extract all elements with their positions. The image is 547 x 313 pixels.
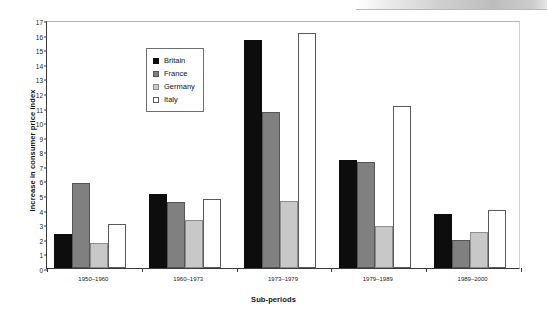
bar-france-1950–1960 bbox=[72, 183, 90, 268]
plot-area: 01234567891011121314151617 bbox=[46, 21, 520, 269]
bar-italy-1973–1979 bbox=[298, 33, 316, 268]
legend-swatch-britain bbox=[153, 58, 159, 64]
x-axis-group-label: 1979–1989 bbox=[363, 276, 393, 282]
bar-france-1989–2000 bbox=[452, 240, 470, 268]
bar-britain-1979–1989 bbox=[339, 160, 357, 268]
legend-label: France bbox=[164, 69, 187, 78]
bar-france-1979–1989 bbox=[357, 162, 375, 268]
legend: BritainFranceGermanyItaly bbox=[146, 48, 204, 112]
bar-germany-1979–1989 bbox=[375, 226, 393, 268]
legend-label: Britain bbox=[164, 56, 185, 65]
x-axis-tick-mark bbox=[142, 268, 143, 272]
x-axis-group-label: 1960–1973 bbox=[173, 276, 203, 282]
legend-label: Italy bbox=[164, 95, 178, 104]
bar-britain-1989–2000 bbox=[434, 214, 452, 268]
bar-italy-1989–2000 bbox=[488, 210, 506, 268]
bar-france-1960–1973 bbox=[167, 202, 185, 268]
legend-label: Germany bbox=[164, 82, 195, 91]
x-axis-group-label: 1950–1960 bbox=[78, 276, 108, 282]
x-axis-tick-mark bbox=[237, 268, 238, 272]
x-axis-group-label: 1973–1979 bbox=[268, 276, 298, 282]
bar-chart: Increase in consumer price index 0123456… bbox=[0, 0, 547, 313]
legend-item-germany: Germany bbox=[153, 80, 195, 93]
x-axis-tick-mark bbox=[331, 268, 332, 272]
bar-italy-1979–1989 bbox=[393, 106, 411, 268]
bar-germany-1960–1973 bbox=[185, 220, 203, 268]
x-axis-title: Sub-periods bbox=[0, 295, 547, 304]
legend-swatch-italy bbox=[153, 97, 159, 103]
bar-britain-1973–1979 bbox=[244, 40, 262, 268]
bar-britain-1960–1973 bbox=[149, 194, 167, 268]
x-axis-tick-mark bbox=[521, 268, 522, 272]
bar-italy-1960–1973 bbox=[203, 199, 221, 268]
legend-item-italy: Italy bbox=[153, 93, 195, 106]
bar-germany-1950–1960 bbox=[90, 243, 108, 268]
bar-france-1973–1979 bbox=[262, 112, 280, 268]
bars-layer bbox=[47, 22, 519, 268]
x-axis-tick-mark bbox=[47, 268, 48, 272]
bar-britain-1950–1960 bbox=[54, 234, 72, 268]
legend-item-france: France bbox=[153, 67, 195, 80]
legend-swatch-germany bbox=[153, 84, 159, 90]
x-axis-tick-mark bbox=[426, 268, 427, 272]
bar-germany-1973–1979 bbox=[280, 201, 298, 268]
legend-swatch-france bbox=[153, 71, 159, 77]
bar-germany-1989–2000 bbox=[470, 232, 488, 268]
bar-italy-1950–1960 bbox=[108, 224, 126, 268]
x-axis-group-label: 1989–2000 bbox=[458, 276, 488, 282]
legend-item-britain: Britain bbox=[153, 54, 195, 67]
